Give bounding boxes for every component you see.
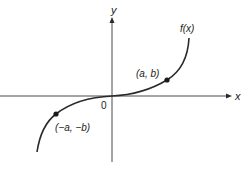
x-axis-arrow-icon: [226, 94, 232, 99]
curve-label: f(x): [180, 23, 194, 34]
point-a-b: [164, 77, 169, 82]
point-neg-a-neg-b-label: (−a, −b): [55, 122, 90, 133]
y-axis-label: y: [110, 4, 118, 16]
y-axis-arrow-icon: [110, 17, 115, 23]
function-diagram: y x 0 f(x) (a, b) (−a, −b): [0, 0, 250, 169]
point-a-b-label: (a, b): [136, 68, 159, 79]
function-curve: [37, 38, 189, 152]
point-neg-a-neg-b: [53, 111, 58, 116]
origin-label: 0: [101, 100, 107, 111]
y-axis: [110, 17, 115, 162]
x-axis-label: x: [234, 90, 241, 102]
